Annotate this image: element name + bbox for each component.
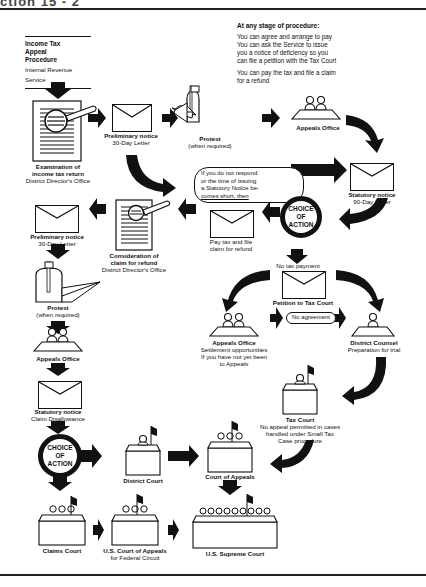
supreme-court-title: U.S. Supreme Court	[200, 550, 270, 558]
arrow-right-icon	[168, 445, 199, 467]
no-tax-label: No tax payment	[270, 262, 326, 270]
arrow-down-icon	[46, 421, 70, 434]
arrow-left-icon	[262, 201, 280, 223]
bubble-line: comes short, then	[201, 193, 297, 201]
tax-court-icon	[283, 365, 317, 414]
arrow-left-icon	[89, 198, 106, 220]
warning-bubble: If you do not respond or the time of iss…	[194, 167, 304, 203]
arrow-right-icon	[270, 307, 283, 329]
protest-left-sub: (when required)	[28, 311, 88, 319]
arrow-right-icon	[80, 444, 102, 468]
choice-line: ACTION	[288, 221, 313, 229]
appeals-office-icon	[210, 314, 258, 337]
court-of-appeals-title: Court of Appeals	[200, 473, 260, 481]
diagram-arrows-layer	[0, 0, 426, 587]
petition-title: Petition to Tax Court	[270, 299, 336, 307]
court-of-appeals-icon	[208, 421, 252, 472]
choice-line: CHOICE	[288, 205, 313, 213]
arrow-down-icon	[46, 363, 70, 376]
magnifier-document-icon	[116, 200, 170, 250]
curved-arrow-icon	[342, 357, 386, 405]
protest-top-sub: (when required)	[180, 142, 240, 150]
appeals-left-title: Appeals Office	[30, 355, 86, 363]
district-court-title: District Court	[118, 477, 168, 485]
arrow-right-icon	[93, 519, 104, 541]
choice-line: CHOICE	[47, 444, 72, 452]
mailbox-icon	[36, 262, 100, 302]
choice-line: ACTION	[47, 460, 72, 468]
curved-arrow-icon	[270, 440, 314, 473]
curved-arrow-icon	[126, 155, 176, 197]
envelope-icon	[282, 271, 326, 299]
federal-circuit-court-icon	[112, 494, 158, 545]
prelim-left-sub: 30-Day Letter	[26, 240, 88, 248]
tax-court-sub3: Case procedure	[256, 437, 344, 445]
district-counsel-icon	[352, 314, 394, 337]
bubble-line: If you do not respond	[201, 170, 297, 178]
statutory-top-sub: 90-Day Letter	[344, 198, 400, 206]
magnifier-document-icon	[33, 101, 96, 161]
choice-of-action-top: CHOICEOFACTION	[280, 196, 322, 238]
envelope-icon	[350, 163, 394, 191]
bubble-line: or the time of issuing	[201, 178, 297, 186]
choice-line: OF	[288, 213, 313, 221]
bubble-line: a Statutory Notice be-	[201, 185, 297, 193]
arrow-left-icon	[178, 198, 196, 220]
statutory-left-sub: Claim Disallowance	[24, 415, 92, 423]
arrow-right-icon	[168, 519, 179, 541]
examination-sub: District Director's Office	[18, 177, 98, 185]
claims-court-title: Claims Court	[36, 547, 88, 555]
no-agreement-pill: No agreement	[286, 312, 336, 324]
district-counsel-sub: Preparation for trial	[342, 346, 406, 354]
envelope-icon	[210, 210, 254, 238]
pay-tax-line2: claim for refund	[204, 245, 258, 253]
curved-arrow-icon	[336, 270, 384, 312]
arrow-down-icon	[45, 82, 71, 99]
choice-line: OF	[47, 452, 72, 460]
envelope-icon	[38, 381, 82, 409]
appeals-mid-sub3: to Appeals	[196, 360, 272, 368]
supreme-court-icon	[193, 494, 277, 548]
district-court-icon	[126, 426, 160, 475]
claims-court-icon	[39, 496, 85, 545]
appeals-office-icon	[292, 97, 340, 120]
curved-arrow-icon	[346, 115, 384, 153]
us-court-appeals-fed-sub: for Federal Circuit	[100, 554, 170, 562]
arrow-down-icon	[48, 476, 72, 491]
arrow-down-icon	[218, 480, 242, 495]
curved-arrow-icon	[222, 270, 270, 312]
prelim-top-sub: 30-Day Letter	[101, 139, 161, 147]
appeals-top-title: Appeals Office	[290, 124, 346, 132]
choice-of-action-left: CHOICEOFACTION	[38, 434, 82, 478]
envelope-icon	[112, 104, 152, 132]
consideration-sub: District Director's Office	[96, 266, 172, 274]
envelope-icon	[35, 205, 79, 233]
arrow-right-icon	[262, 108, 280, 128]
